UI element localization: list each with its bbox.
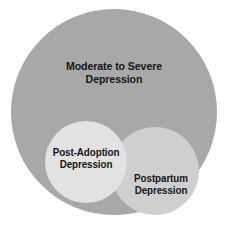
venn-diagram: Moderate to Severe Depression Post-Adopt… (0, 0, 230, 227)
venn-circles-canvas (0, 0, 230, 227)
circle-post-adoption-depression (45, 121, 127, 203)
